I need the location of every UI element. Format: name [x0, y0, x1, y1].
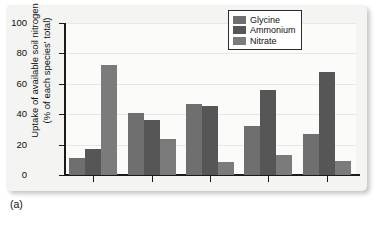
gridline	[64, 23, 356, 24]
bar-nitrate-group-4	[276, 155, 292, 175]
y-tick-mark	[59, 175, 64, 176]
y-tick-label: 40	[1, 109, 27, 119]
y-tick-mark	[59, 84, 64, 85]
legend-swatch-icon-ammonium	[233, 26, 246, 34]
legend-item-ammonium: Ammonium	[233, 25, 296, 35]
bar-glycine-group-5	[303, 134, 319, 175]
y-tick-mark	[59, 114, 64, 115]
bar-ammonium-group-1	[85, 149, 101, 175]
y-tick-mark	[59, 23, 64, 24]
bar-nitrate-group-5	[335, 161, 351, 175]
figure-a: 020406080100 Uptake of available soil ni…	[0, 0, 389, 227]
y-tick-mark	[59, 145, 64, 146]
legend-item-glycine: Glycine	[233, 15, 296, 25]
figure-caption: (a)	[10, 198, 23, 210]
legend-swatch-icon-glycine	[233, 16, 246, 24]
y-tick-label: 0	[1, 170, 27, 180]
y-tick-label: 20	[1, 140, 27, 150]
x-tick-mark	[210, 176, 211, 182]
y-axis-title-line-2: (% of each species' total)	[40, 0, 52, 151]
bar-glycine-group-1	[69, 158, 85, 175]
y-axis-title-line-1: Uptake of available soil nitrogen	[29, 3, 40, 138]
legend-label: Glycine	[250, 15, 280, 25]
bar-glycine-group-3	[186, 104, 202, 175]
y-tick-label: 80	[1, 48, 27, 58]
y-tick-label: 100	[1, 18, 27, 28]
x-tick-mark	[268, 176, 269, 182]
x-tick-mark	[93, 176, 94, 182]
gridline	[64, 53, 356, 54]
bar-ammonium-group-4	[260, 90, 276, 175]
y-tick-mark	[59, 53, 64, 54]
y-axis-title: Uptake of available soil nitrogen (% of …	[29, 0, 52, 151]
x-tick-mark	[327, 176, 328, 182]
legend-label: Nitrate	[250, 36, 277, 46]
y-axis-line	[64, 23, 66, 176]
legend-swatch-icon-nitrate	[233, 37, 246, 45]
bar-nitrate-group-2	[160, 139, 176, 175]
y-tick-label: 60	[1, 79, 27, 89]
bar-glycine-group-4	[244, 126, 260, 175]
legend-item-nitrate: Nitrate	[233, 36, 296, 46]
chart-panel: 020406080100 Uptake of available soil ni…	[6, 5, 367, 191]
legend: GlycineAmmoniumNitrate	[228, 10, 302, 50]
bar-nitrate-group-3	[218, 162, 234, 175]
bar-ammonium-group-2	[144, 120, 160, 175]
legend-label: Ammonium	[250, 25, 296, 35]
x-tick-mark	[152, 176, 153, 182]
bar-nitrate-group-1	[101, 65, 117, 175]
bar-ammonium-group-5	[319, 72, 335, 175]
bar-ammonium-group-3	[202, 106, 218, 175]
bar-glycine-group-2	[128, 113, 144, 175]
